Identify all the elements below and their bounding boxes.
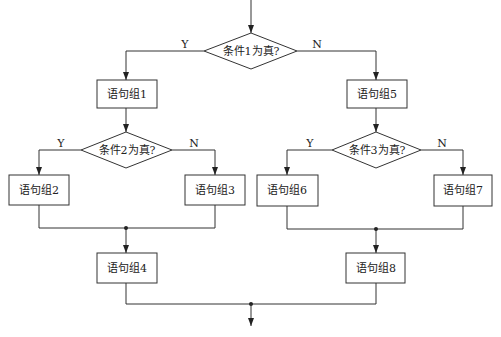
decision-1-yes-label: Y: [181, 39, 188, 50]
decision-1-label: 条件1为真?: [223, 46, 280, 57]
process-2-label: 语句组2: [19, 185, 59, 196]
decision-3-yes-label: Y: [306, 138, 313, 149]
d1-yes-connector: [126, 51, 204, 80]
decision-3-no-label: N: [437, 138, 447, 149]
decision-1-no-label: N: [312, 39, 322, 50]
decision-2-yes-label: Y: [57, 138, 64, 149]
decision-2-label: 条件2为真?: [99, 145, 156, 156]
process-1-label: 语句组1: [107, 89, 147, 100]
process-6-label: 语句组6: [267, 185, 307, 196]
d1-no-connector: [297, 51, 376, 80]
process-4-label: 语句组4: [107, 263, 147, 274]
process-5-label: 语句组5: [357, 89, 397, 100]
process-3-label: 语句组3: [195, 185, 235, 196]
decision-2-no-label: N: [189, 138, 199, 149]
decision-3-label: 条件3为真?: [349, 145, 406, 156]
process-7-label: 语句组7: [443, 185, 483, 196]
process-8-label: 语句组8: [356, 263, 396, 274]
